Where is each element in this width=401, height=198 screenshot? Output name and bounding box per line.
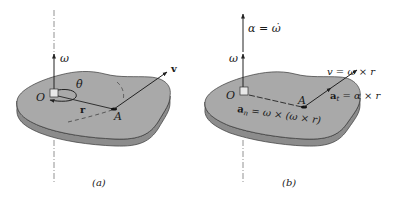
point-a-label: A bbox=[113, 110, 122, 123]
point-a-label: A bbox=[297, 94, 306, 107]
radius-label: r bbox=[80, 104, 86, 115]
theta-dot-label: θ̇ bbox=[76, 78, 83, 91]
omega-label: ω bbox=[60, 52, 69, 65]
caption-b: (b) bbox=[282, 177, 296, 188]
omega-label: ω bbox=[229, 52, 238, 65]
pivot-cube bbox=[240, 87, 248, 95]
panel-b: α = ω̇ ω O A v = ω × r at = α × r an = ω… bbox=[205, 14, 382, 188]
velocity-label: v bbox=[170, 63, 178, 74]
pivot-cube bbox=[50, 89, 58, 97]
origin-label: O bbox=[226, 89, 235, 102]
origin-label: O bbox=[36, 91, 45, 104]
rigid-body-rotation-figure: ω θ̇ O r A v (a) α = ω̇ ω O A v = ω × r … bbox=[0, 0, 401, 198]
velocity-label: v = ω × r bbox=[327, 66, 376, 77]
panel-a: ω θ̇ O r A v (a) bbox=[17, 10, 178, 188]
caption-a: (a) bbox=[92, 177, 106, 188]
alpha-label: α = ω̇ bbox=[248, 22, 281, 35]
